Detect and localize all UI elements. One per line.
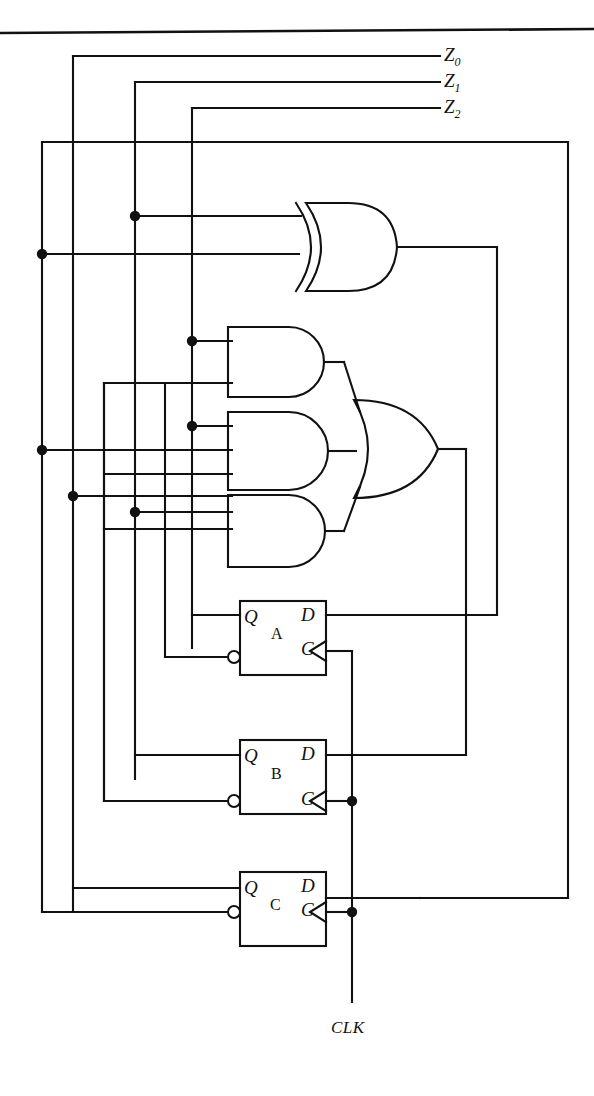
ffc-qbar-bubble	[228, 906, 240, 918]
output-label-z0: Z0	[444, 44, 461, 70]
and-gate-2	[228, 412, 328, 490]
junction-dot	[130, 507, 140, 517]
junction-dots	[37, 211, 357, 917]
and3-to-or-slant	[344, 487, 360, 531]
ffb-name-label: B	[271, 765, 282, 783]
logic-diagram-canvas	[0, 0, 594, 1096]
ffa-c-label: C	[301, 638, 314, 660]
junction-dot	[68, 491, 78, 501]
output-label-z1: Z1	[444, 70, 461, 96]
ffa-q-label: Q	[244, 606, 258, 628]
ffc-c-label: C	[301, 899, 314, 921]
schematic-page: Z0 Z1 Z2 Q D C A Q D C B Q D C C CLK	[0, 0, 594, 1096]
xor-gate	[296, 203, 397, 291]
ffb-d-label: D	[301, 743, 315, 765]
junction-dot	[347, 907, 357, 917]
ffb-c-label: C	[301, 788, 314, 810]
ffa-d-label: D	[301, 604, 315, 626]
or-gate	[354, 400, 438, 498]
junction-dot	[187, 421, 197, 431]
junction-dot	[130, 211, 140, 221]
junction-dot	[347, 796, 357, 806]
ffc-name-label: C	[270, 896, 281, 914]
ffc-d-label: D	[301, 875, 315, 897]
ffa-name-label: A	[271, 625, 283, 643]
ffb-q-label: Q	[244, 745, 258, 767]
junction-dot	[37, 249, 47, 259]
junction-dot	[187, 336, 197, 346]
ffa-qbar-bubble	[228, 651, 240, 663]
and-gate-1	[228, 327, 324, 397]
junction-dot	[37, 445, 47, 455]
and-gate-3	[228, 495, 325, 567]
page-header-rule	[0, 29, 594, 33]
ffc-q-label: Q	[244, 877, 258, 899]
clk-label: CLK	[331, 1018, 365, 1038]
output-label-z2: Z2	[444, 96, 461, 122]
ffb-qbar-bubble	[228, 795, 240, 807]
